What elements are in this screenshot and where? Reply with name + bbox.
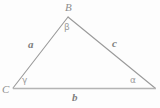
side-label-a: a — [28, 39, 34, 50]
side-label-b: b — [72, 92, 78, 103]
geometry-diagram-canvas: B C a b c β γ α — [0, 0, 160, 108]
vertex-label-c: C — [2, 84, 9, 95]
angle-label-beta: β — [64, 23, 70, 32]
vertex-label-b: B — [65, 2, 72, 13]
angle-label-gamma: γ — [22, 76, 27, 85]
side-label-c: c — [112, 38, 117, 49]
triangle-side-c-line — [68, 17, 155, 88]
angle-label-alpha: α — [130, 76, 136, 85]
triangle-figure — [0, 0, 160, 108]
